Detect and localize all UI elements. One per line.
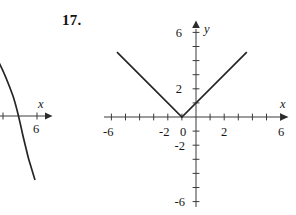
x-tick-label: -2 [159,125,169,139]
main-graph-figure: x y -6 -2 0 2 6 6 2 -2 -6 [100,15,296,215]
left-partial-graph-svg: x 6 [0,40,56,190]
y-tick-label: 2 [176,82,182,96]
x-tick-label: 6 [278,125,284,139]
x-tick-label: 2 [221,125,227,139]
x-axis-name: x [279,97,286,111]
x-tick-label: 0 [180,125,186,139]
y-axis-name: y [202,22,210,36]
y-tick-label: -2 [175,139,185,153]
x-axis-arrowhead [280,113,289,121]
left-curve-path [0,54,35,180]
y-tick-label: 6 [176,26,182,40]
problem-number-label: 17. [62,13,82,28]
left-partial-graph-figure: x 6 [0,40,56,190]
left-x-axis-name: x [37,97,44,111]
y-axis-arrowhead [192,21,200,29]
textbook-figure-page: 17. x 6 [0,0,296,215]
y-tick-label: -6 [175,195,185,209]
left-x-tick-label: 6 [33,122,39,136]
main-graph-svg: x y -6 -2 0 2 6 6 2 -2 -6 [100,15,296,215]
left-x-axis-arrowhead [45,112,53,119]
x-tick-label: -6 [103,125,113,139]
